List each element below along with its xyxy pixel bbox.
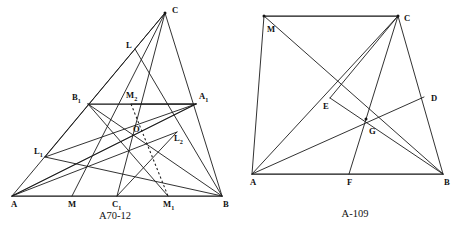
segment-cevian-B-B1 xyxy=(88,104,222,196)
segment-line-L-B xyxy=(135,49,222,196)
dashed-dashed-M2-M1 xyxy=(131,104,168,196)
point-label-M2: M2 xyxy=(126,90,137,102)
point-label-B: B xyxy=(223,199,229,209)
segment-line-A-L2 xyxy=(12,132,177,196)
segment-diag-A-C xyxy=(252,16,398,174)
figure-right-vertices xyxy=(263,15,400,121)
point-label-A: A xyxy=(11,199,18,209)
point-label-C: C xyxy=(404,13,410,23)
point-label-M: M xyxy=(267,24,275,34)
point-label-A: A xyxy=(250,177,257,187)
figure-left-dashed xyxy=(131,104,168,196)
vertex-dot-C xyxy=(397,15,400,18)
segment-cevian-C-F xyxy=(349,16,398,174)
figure-right-labels: ABCMDEFG xyxy=(250,13,450,187)
segment-segment-E-B xyxy=(330,98,443,174)
point-label-D: D xyxy=(431,93,437,103)
point-label-C: C xyxy=(172,5,178,15)
point-label-L2: L2 xyxy=(174,133,183,145)
segment-cevian-A-D xyxy=(252,97,424,174)
point-label-O: O xyxy=(133,124,140,134)
segment-side-AM xyxy=(252,16,264,174)
vertex-dot-M xyxy=(263,15,266,18)
vertex-dot-C xyxy=(164,12,167,15)
point-label-G: G xyxy=(369,126,376,136)
figure-right-lines xyxy=(252,16,443,174)
segment-line-L2-M1 xyxy=(117,132,177,196)
point-label-E: E xyxy=(323,101,329,111)
segment-diag-M-B xyxy=(264,16,443,174)
point-label-L1: L1 xyxy=(34,146,43,158)
point-label-A1: A1 xyxy=(199,91,208,103)
point-label-M: M xyxy=(68,199,76,209)
figure-left-lines xyxy=(12,13,222,196)
geometry-figures-canvas: ABCMC1M1B1A1M2LL1L2O A70-12 ABCMDEFG A-1… xyxy=(0,0,461,232)
diagram-page: ABCMC1M1B1A1M2LL1L2O A70-12 ABCMDEFG A-1… xyxy=(0,0,461,232)
segment-line-C-L1 xyxy=(45,13,165,157)
figure-left-vertices xyxy=(164,12,167,15)
point-label-B: B xyxy=(444,177,450,187)
segment-line-L1-B xyxy=(45,157,222,196)
segment-segment-C-E xyxy=(330,16,398,98)
figure-left-caption: A70-12 xyxy=(99,210,131,221)
vertex-dot-G xyxy=(365,118,368,121)
point-label-F: F xyxy=(347,177,352,187)
point-label-L: L xyxy=(126,40,132,50)
point-label-M1: M1 xyxy=(163,199,174,211)
point-label-B1: B1 xyxy=(72,92,81,104)
figure-right-caption: A-109 xyxy=(342,208,369,219)
